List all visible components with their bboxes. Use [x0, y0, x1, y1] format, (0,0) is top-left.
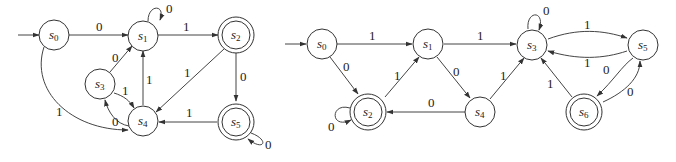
left-state-s4: s4: [128, 106, 158, 136]
svg-text:0: 0: [543, 3, 550, 18]
right-state-s4: s4: [465, 97, 495, 127]
right-edge-s2-s2-loop: 0: [328, 107, 351, 134]
right-diagram: 1 0 1 0 1 0 0 1: [285, 3, 658, 134]
right-edge-s1-s4: 0: [437, 57, 470, 98]
svg-text:0: 0: [96, 19, 103, 34]
svg-text:0: 0: [166, 1, 173, 16]
left-edge-s2-s5: 0: [236, 53, 247, 101]
svg-text:1: 1: [584, 17, 591, 32]
svg-text:1: 1: [183, 19, 190, 34]
left-edge-s3-s4: 1: [114, 83, 134, 108]
svg-text:0: 0: [627, 84, 634, 99]
svg-text:0: 0: [265, 137, 272, 152]
svg-text:1: 1: [500, 68, 507, 83]
left-state-s3: s3: [85, 69, 115, 99]
svg-text:1: 1: [56, 104, 63, 119]
state-diagrams: 0 1 0 1 1 0 0 1: [0, 0, 676, 162]
left-state-s1: s1: [128, 21, 158, 51]
left-state-s2-accepting: s2: [218, 17, 254, 53]
svg-text:0: 0: [240, 69, 247, 84]
right-edge-s0-s2: 0: [330, 57, 358, 94]
svg-text:0: 0: [112, 114, 119, 129]
right-edge-s4-s2: 0: [387, 95, 465, 112]
svg-text:1: 1: [394, 68, 401, 83]
svg-text:1: 1: [184, 65, 191, 80]
svg-text:1: 1: [146, 72, 153, 87]
right-state-s6-accepting: s6: [566, 94, 602, 130]
right-edge-s3-s5: 1: [548, 17, 627, 39]
svg-text:1: 1: [584, 55, 591, 70]
svg-text:0: 0: [112, 50, 119, 65]
left-edge-s5-s5-loop: 0: [248, 133, 272, 152]
svg-text:0: 0: [428, 95, 435, 110]
right-state-s3: s3: [517, 30, 547, 60]
right-edge-s1-s3: 1: [444, 28, 516, 44]
right-edge-s2-s1: 1: [385, 57, 419, 97]
right-edge-s5-s3: 1: [548, 51, 627, 70]
left-state-s0: s0: [39, 20, 69, 50]
right-state-s1: s1: [413, 29, 443, 59]
svg-text:1: 1: [122, 83, 129, 98]
svg-text:1: 1: [186, 105, 193, 120]
left-edge-s1-s1-loop: 0: [148, 1, 173, 21]
right-state-s5: s5: [628, 30, 658, 60]
right-edge-s0-s1: 1: [337, 28, 412, 44]
right-state-s0: s0: [307, 29, 337, 59]
svg-text:0: 0: [603, 62, 610, 77]
left-edge-s0-s1: 0: [69, 19, 128, 35]
svg-text:1: 1: [369, 28, 376, 43]
left-state-s5-accepting: s5: [218, 104, 254, 140]
svg-text:0: 0: [343, 59, 350, 74]
right-edge-s3-s3-loop: 0: [528, 3, 550, 30]
left-diagram: 0 1 0 1 1 0 0 1: [18, 1, 272, 152]
left-edge-s2-s4: 1: [156, 49, 224, 112]
left-edge-s4-s1: 1: [143, 51, 153, 105]
svg-text:0: 0: [453, 64, 460, 79]
svg-text:1: 1: [547, 76, 554, 91]
left-edge-s3-s1: 0: [110, 46, 132, 72]
svg-text:1: 1: [477, 28, 484, 43]
right-edge-s4-s3: 1: [490, 58, 524, 99]
left-edge-s1-s2: 1: [158, 19, 218, 35]
right-edge-s6-s3: 1: [541, 58, 572, 97]
left-edge-s5-s4: 1: [159, 105, 217, 122]
left-edge-s4-s3: 0: [105, 100, 129, 129]
svg-text:0: 0: [328, 119, 335, 134]
right-state-s2-accepting: s2: [350, 94, 386, 130]
